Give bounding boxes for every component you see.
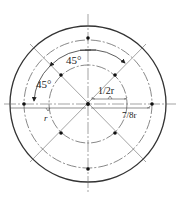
point-center: [86, 102, 90, 106]
point-middle-bottom: [86, 167, 90, 171]
seven-eighths-r-dimension: [91, 106, 150, 108]
point-inner-ul: [59, 73, 63, 77]
diagram-svg: 45° 45° 1/2r 7/8r r: [0, 0, 183, 197]
seven-eighths-r-label: 7/8r: [122, 110, 137, 120]
r-dimension: [10, 108, 86, 111]
half-r-brace: [92, 96, 127, 99]
measurement-point-diagram: 45° 45° 1/2r 7/8r r: [0, 0, 183, 197]
point-middle-left: [22, 102, 26, 106]
r-label: r: [44, 113, 48, 123]
angle-arc-top: [85, 50, 125, 63]
half-r-label: 1/2r: [98, 85, 115, 96]
point-middle-top: [86, 36, 90, 40]
point-middle-right: [150, 102, 154, 106]
point-inner-ur: [113, 73, 117, 77]
point-inner-lr: [113, 131, 117, 135]
angle-label-top: 45°: [66, 54, 81, 66]
point-inner-ll: [59, 131, 63, 135]
angle-label-left: 45°: [36, 78, 51, 90]
